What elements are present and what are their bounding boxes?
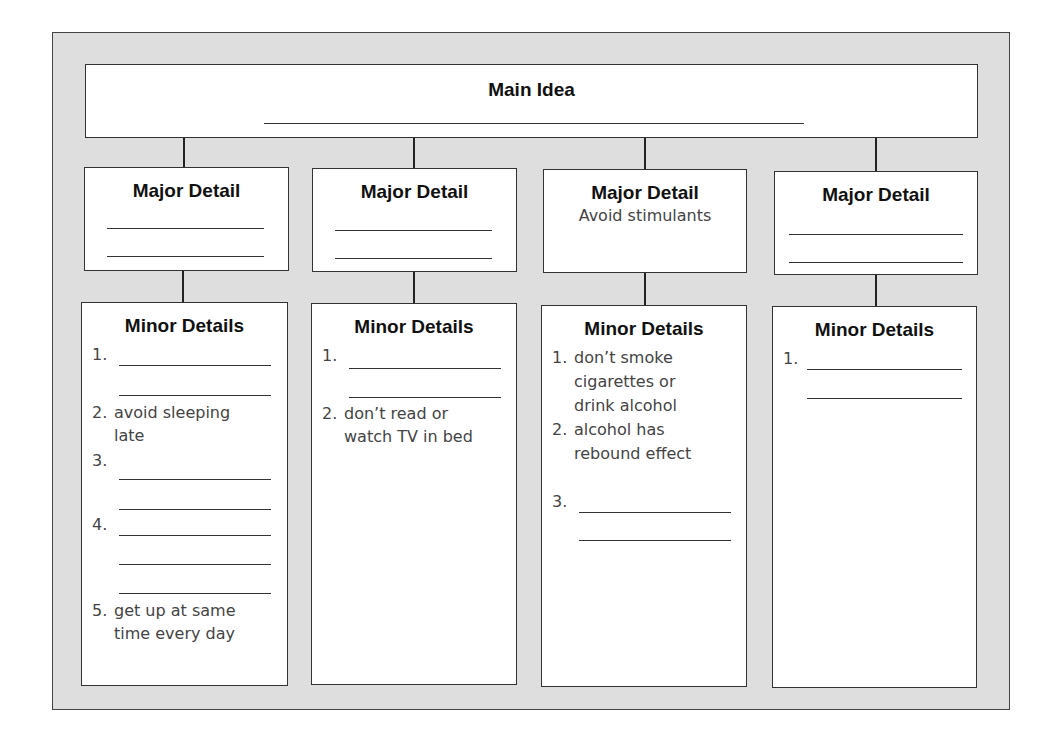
item-number: 1. <box>552 346 567 369</box>
connector <box>875 275 877 307</box>
item-number: 1. <box>783 347 798 370</box>
major-detail-box-1: Major Detail <box>84 167 289 271</box>
item-text-line: don’t smoke <box>574 346 738 369</box>
minor-item-blank[interactable] <box>579 512 731 513</box>
main-idea-label: Main Idea <box>86 79 977 101</box>
connector <box>875 138 877 171</box>
connector <box>413 138 415 169</box>
major-detail-label: Major Detail <box>775 184 977 206</box>
item-number: 5. <box>92 599 107 622</box>
major-detail-label: Major Detail <box>85 180 288 202</box>
item-number: 3. <box>92 449 107 472</box>
major-detail-box-2: Major Detail <box>312 168 517 272</box>
major-detail-box-4: Major Detail <box>774 171 978 275</box>
minor-details-box-3: Minor Details 1. don’t smoke cigarettes … <box>541 305 747 687</box>
major-detail-blank[interactable] <box>107 256 264 257</box>
major-detail-value: Avoid stimulants <box>544 204 746 227</box>
main-idea-box: Main Idea <box>85 64 978 138</box>
item-number: 2. <box>92 401 107 424</box>
item-number: 1. <box>92 343 107 366</box>
minor-item-blank[interactable] <box>119 564 271 565</box>
connector <box>182 271 184 303</box>
minor-item-blank[interactable] <box>119 509 271 510</box>
minor-details-label: Minor Details <box>542 318 746 340</box>
minor-item-blank[interactable] <box>579 540 731 541</box>
main-idea-blank[interactable] <box>264 123 804 124</box>
item-text-line: rebound effect <box>574 442 738 465</box>
minor-details-label: Minor Details <box>312 316 516 338</box>
minor-item-blank[interactable] <box>807 369 962 370</box>
item-text-line: get up at same <box>114 599 279 622</box>
major-detail-box-3: Major Detail Avoid stimulants <box>543 169 747 273</box>
minor-item-blank[interactable] <box>349 397 501 398</box>
minor-details-box-1: Minor Details 1. 2. avoid sleeping late … <box>81 302 288 686</box>
item-text-line: late <box>114 424 279 447</box>
minor-item-blank[interactable] <box>349 368 501 369</box>
major-detail-label: Major Detail <box>544 182 746 204</box>
major-detail-label: Major Detail <box>313 181 516 203</box>
connector <box>644 138 646 170</box>
item-text-line: drink alcohol <box>574 394 738 417</box>
minor-details-box-4: Minor Details 1. <box>772 306 977 688</box>
minor-details-box-2: Minor Details 1. 2. don’t read or watch … <box>311 303 517 685</box>
item-number: 2. <box>322 402 337 425</box>
major-detail-blank[interactable] <box>335 230 492 231</box>
minor-item-blank[interactable] <box>807 398 962 399</box>
item-text-line: avoid sleeping <box>114 401 279 424</box>
item-number: 3. <box>552 490 567 513</box>
connector <box>644 273 646 306</box>
item-number: 2. <box>552 418 567 441</box>
minor-item-blank[interactable] <box>119 395 271 396</box>
major-detail-blank[interactable] <box>107 228 264 229</box>
minor-details-label: Minor Details <box>82 315 287 337</box>
minor-details-label: Minor Details <box>773 319 976 341</box>
connector <box>413 272 415 304</box>
item-text-line: time every day <box>114 622 279 645</box>
minor-item-blank[interactable] <box>119 593 271 594</box>
minor-item-blank[interactable] <box>119 365 271 366</box>
connector <box>183 138 185 168</box>
item-text-line: alcohol has <box>574 418 738 441</box>
minor-item-blank[interactable] <box>119 479 271 480</box>
minor-item-blank[interactable] <box>119 535 271 536</box>
item-number: 4. <box>92 513 107 536</box>
item-number: 1. <box>322 344 337 367</box>
major-detail-blank[interactable] <box>789 262 963 263</box>
major-detail-blank[interactable] <box>335 258 492 259</box>
item-text-line: cigarettes or <box>574 370 738 393</box>
item-text-line: watch TV in bed <box>344 425 508 448</box>
item-text-line: don’t read or <box>344 402 508 425</box>
major-detail-blank[interactable] <box>789 234 963 235</box>
